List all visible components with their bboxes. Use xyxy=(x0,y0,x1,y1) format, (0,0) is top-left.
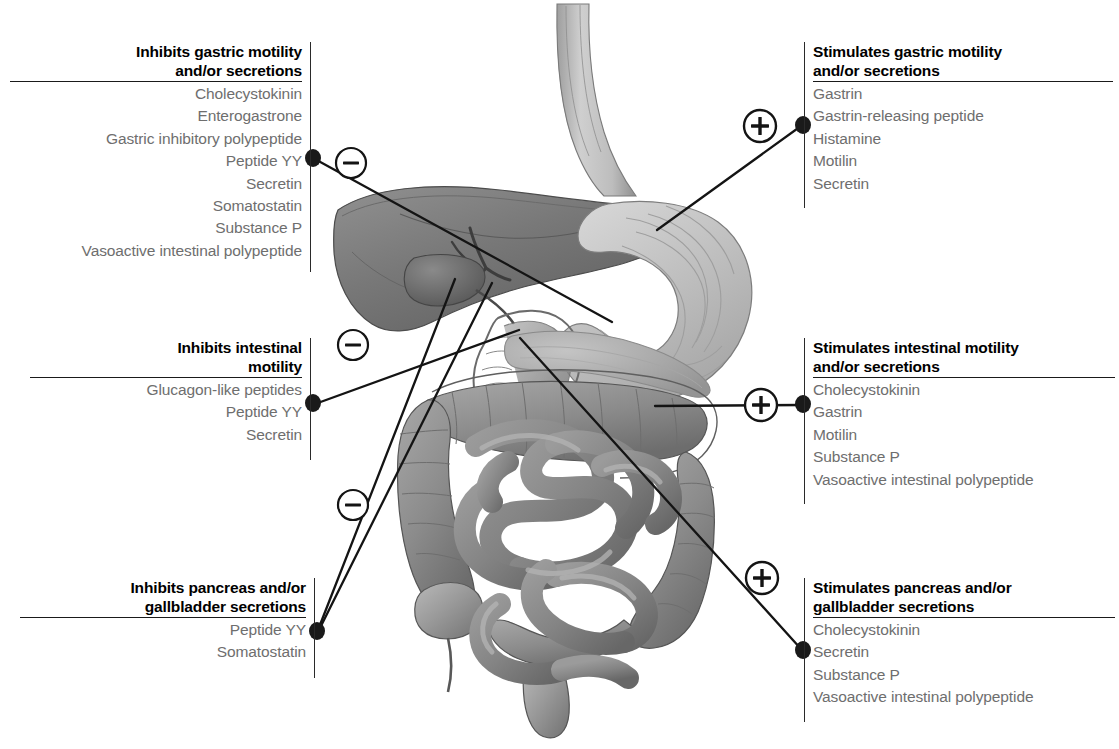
hormone-item: Gastrin-releasing peptide xyxy=(813,105,1113,127)
heading-underline xyxy=(813,377,1115,378)
hormone-item: Vasoactive intestinal polypeptide xyxy=(10,240,302,262)
block-heading-line-2: motility xyxy=(30,357,302,376)
anchor-dot xyxy=(305,149,321,167)
block-bar xyxy=(310,338,311,460)
block-heading-line-2: and/or secretions xyxy=(813,357,1115,376)
block-inhibits-gastric: Inhibits gastric motility and/or secreti… xyxy=(10,42,302,262)
stimulation-sign-intestinal xyxy=(739,383,783,427)
hormone-item: Peptide YY xyxy=(20,619,306,641)
stimulation-sign-pancreas xyxy=(740,556,784,600)
hormone-item: Secretin xyxy=(30,424,302,446)
block-bar xyxy=(314,578,315,678)
hormone-item: Secretin xyxy=(813,173,1113,195)
heading-underline xyxy=(10,81,302,82)
block-heading-line-2: gallbladder secretions xyxy=(20,597,306,616)
block-heading-line-2: and/or secretions xyxy=(10,61,302,80)
hormone-item: Glucagon-like peptides xyxy=(30,379,302,401)
hormone-item: Enterogastrone xyxy=(10,105,302,127)
hormone-item: Somatostatin xyxy=(10,195,302,217)
stimulation-sign-gastric xyxy=(738,104,782,148)
heading-underline xyxy=(20,617,306,618)
anchor-dot xyxy=(795,395,811,413)
diagram-canvas: Inhibits gastric motility and/or secreti… xyxy=(0,0,1119,749)
block-heading-line-1: Stimulates pancreas and/or xyxy=(813,578,1115,597)
hormone-item: Gastric inhibitory polypeptide xyxy=(10,128,302,150)
block-heading-line-1: Inhibits intestinal xyxy=(30,338,302,357)
block-heading-line-2: and/or secretions xyxy=(813,61,1113,80)
hormone-item: Vasoactive intestinal polypeptide xyxy=(813,469,1115,491)
block-bar xyxy=(310,42,311,272)
heading-underline xyxy=(813,617,1115,618)
block-heading-line-1: Inhibits gastric motility xyxy=(10,42,302,61)
hormone-item: Substance P xyxy=(813,664,1115,686)
block-bar xyxy=(804,42,805,208)
hormone-item: Peptide YY xyxy=(30,401,302,423)
hormone-item: Peptide YY xyxy=(10,150,302,172)
anchor-dot xyxy=(309,622,325,640)
hormone-item: Somatostatin xyxy=(20,641,306,663)
block-bar xyxy=(804,578,805,722)
anchor-dot xyxy=(795,641,811,659)
block-inhibits-pancreas: Inhibits pancreas and/or gallbladder sec… xyxy=(20,578,306,664)
hormone-item: Vasoactive intestinal polypeptide xyxy=(813,686,1115,708)
block-stimulates-pancreas: Stimulates pancreas and/or gallbladder s… xyxy=(813,578,1115,709)
hormone-item: Motilin xyxy=(813,424,1115,446)
hormone-item: Cholecystokinin xyxy=(813,619,1115,641)
inhibition-sign-intestinal xyxy=(332,324,374,366)
block-heading-line-1: Inhibits pancreas and/or xyxy=(20,578,306,597)
block-bar xyxy=(804,338,805,504)
block-heading-line-1: Stimulates intestinal motility xyxy=(813,338,1115,357)
hormone-item: Cholecystokinin xyxy=(10,83,302,105)
hormone-item: Substance P xyxy=(813,446,1115,468)
block-stimulates-intestinal: Stimulates intestinal motility and/or se… xyxy=(813,338,1115,491)
hormone-item: Gastrin xyxy=(813,83,1113,105)
inhibition-sign-gastric xyxy=(330,142,372,184)
heading-underline xyxy=(30,377,302,378)
hormone-item: Secretin xyxy=(813,641,1115,663)
inhibition-sign-pancreas xyxy=(332,484,374,526)
heading-underline xyxy=(813,81,1113,82)
block-stimulates-gastric: Stimulates gastric motility and/or secre… xyxy=(813,42,1113,195)
anchor-dot xyxy=(305,394,321,412)
hormone-item: Gastrin xyxy=(813,401,1115,423)
block-inhibits-intestinal: Inhibits intestinal motility Glucagon-li… xyxy=(30,338,302,446)
anchor-dot xyxy=(795,116,811,134)
hormone-item: Motilin xyxy=(813,150,1113,172)
hormone-item: Secretin xyxy=(10,173,302,195)
hormone-item: Histamine xyxy=(813,128,1113,150)
hormone-item: Cholecystokinin xyxy=(813,379,1115,401)
block-heading-line-1: Stimulates gastric motility xyxy=(813,42,1113,61)
block-heading-line-2: gallbladder secretions xyxy=(813,597,1115,616)
hormone-item: Substance P xyxy=(10,217,302,239)
